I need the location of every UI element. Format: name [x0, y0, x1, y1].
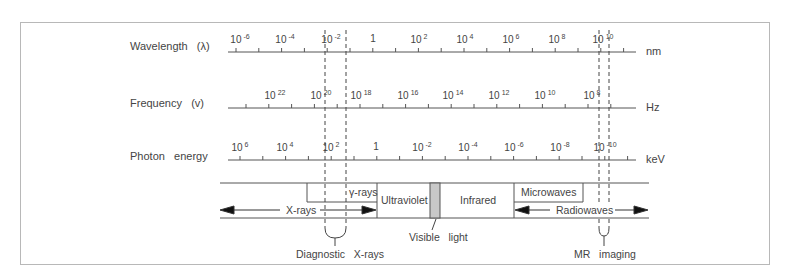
tick-label: 1: [370, 33, 376, 44]
tick-label: 104: [276, 141, 293, 153]
frequency-label: Frequency (v): [130, 97, 204, 109]
wavelength-unit: nm: [646, 45, 661, 57]
energy-unit: keV: [646, 153, 665, 165]
tick-label: 1020: [311, 89, 332, 101]
microwaves-label: Microwaves: [521, 186, 576, 198]
mr-imaging-annotation: MR imaging: [574, 248, 636, 260]
tick-label: 102: [410, 33, 427, 45]
tick-label: 106: [502, 33, 519, 45]
tick-label: 10-2: [412, 141, 431, 153]
mr-brace: [599, 228, 609, 236]
photon-energy-label: Photon energy: [130, 150, 208, 162]
tick-label: 1016: [398, 89, 419, 101]
radiowaves-label: Radiowaves: [554, 204, 615, 216]
tick-label: 108: [583, 89, 600, 101]
visible-light-band: [430, 183, 440, 218]
tick-label: 1012: [489, 89, 510, 101]
diagnostic-brace: [325, 228, 346, 238]
tick-label: 10-10: [593, 141, 616, 153]
tick-label: 10-2: [321, 33, 340, 45]
x-rays-label: X-rays: [284, 204, 318, 216]
tick-label: 1022: [265, 89, 286, 101]
tick-label: 1010: [593, 33, 614, 45]
wavelength-label: Wavelength (λ): [130, 40, 210, 52]
frequency-unit: Hz: [646, 101, 659, 113]
tick-label: 106: [231, 141, 248, 153]
tick-label: 10-4: [458, 141, 477, 153]
tick-label: 1: [373, 141, 379, 152]
diagnostic-xrays-annotation: Diagnostic X-rays: [296, 248, 384, 260]
visible-light-annotation: Visible light: [409, 231, 468, 243]
tick-label: 1018: [351, 89, 372, 101]
infrared-label: Infrared: [460, 194, 496, 206]
tick-label: 108: [548, 33, 565, 45]
spectrum-graphics: [0, 0, 792, 276]
tick-label: 104: [456, 33, 473, 45]
tick-label: 102: [322, 141, 339, 153]
tick-label: 10-6: [504, 141, 523, 153]
tick-label: 10-6: [230, 33, 249, 45]
tick-label: 10-4: [275, 33, 294, 45]
tick-label: 1010: [535, 89, 556, 101]
tick-label: 1014: [443, 89, 464, 101]
gamma-rays-label: γ-rays: [349, 186, 378, 198]
tick-label: 10-8: [550, 141, 569, 153]
ultraviolet-label: Ultraviolet: [381, 194, 428, 206]
